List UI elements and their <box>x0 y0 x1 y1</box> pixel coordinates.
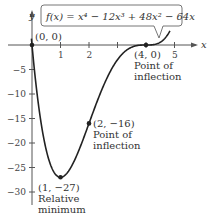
label-min-coords: (1, −27) <box>38 182 80 193</box>
label-min-note-1: Relative <box>38 193 79 204</box>
point-relative-minimum <box>58 175 63 180</box>
label-min-note-2: minimum <box>38 204 86 215</box>
y-tick-neg20: −20 <box>7 138 26 148</box>
function-label: f(x) = x⁴ − 12x³ + 48x² − 64x <box>45 11 195 22</box>
y-tick-neg10: −10 <box>7 89 26 99</box>
y-tick-neg15: −15 <box>7 114 26 124</box>
y-tick-neg30: −30 <box>7 187 26 197</box>
x-axis-arrow-icon <box>191 43 198 48</box>
label-inflection-2-note-2: inflection <box>93 140 141 151</box>
y-tick-neg5: −5 <box>13 65 27 75</box>
label-origin: (0, 0) <box>35 31 62 42</box>
y-tick-neg25: −25 <box>7 163 26 173</box>
label-inflection-2-note-1: Point of <box>93 129 133 140</box>
label-inflection-4-note-1: Point of <box>134 60 174 71</box>
label-inflection-4-coords: (4, 0) <box>134 49 161 60</box>
x-axis-label: x <box>201 39 207 50</box>
function-graph: x y 1 2 5 −5 −10 −15 −20 −25 −30 (0, 0) … <box>0 0 208 218</box>
point-inflection-4 <box>144 43 149 48</box>
point-origin <box>30 43 35 48</box>
point-inflection-2 <box>87 121 92 126</box>
label-inflection-2-coords: (2, −16) <box>93 118 135 129</box>
label-inflection-4-note-2: inflection <box>134 71 182 82</box>
x-tick-2: 2 <box>87 50 93 60</box>
x-tick-1: 1 <box>58 50 64 60</box>
y-axis-label: y <box>28 10 35 21</box>
x-tick-5: 5 <box>172 50 178 60</box>
